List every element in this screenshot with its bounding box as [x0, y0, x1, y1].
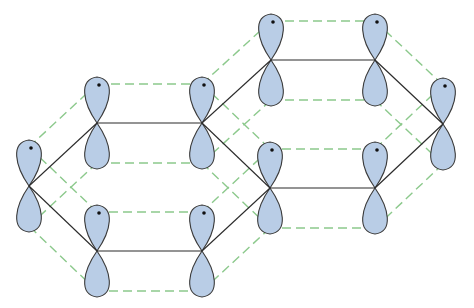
lower-lobe	[258, 188, 283, 234]
upper-lobe	[190, 77, 215, 123]
lower-lobe	[259, 60, 284, 106]
lower-lobe	[85, 123, 110, 169]
upper-lobe	[431, 78, 456, 124]
upper-lobe	[17, 140, 42, 186]
lower-lobe	[431, 124, 456, 170]
orbital-diagram	[0, 0, 474, 308]
upper-lobe	[363, 14, 388, 60]
lower-lobe	[85, 251, 110, 297]
upper-lobe	[85, 205, 110, 251]
upper-lobe	[363, 142, 388, 188]
lower-lobe	[190, 251, 215, 297]
electron-dot	[375, 20, 379, 24]
lower-lobe	[190, 123, 215, 169]
electron-dot	[270, 148, 274, 152]
electron-dot	[375, 148, 379, 152]
lower-lobe	[17, 186, 42, 232]
upper-lobe	[190, 205, 215, 251]
upper-lobe	[85, 77, 110, 123]
upper-lobe	[258, 142, 283, 188]
lower-lobe	[363, 188, 388, 234]
electron-dot	[29, 146, 33, 150]
electron-dot	[202, 83, 206, 87]
upper-lobe	[259, 14, 284, 60]
electron-dot	[97, 83, 101, 87]
electron-dot	[202, 211, 206, 215]
electron-dot	[271, 20, 275, 24]
lower-lobe	[363, 60, 388, 106]
electron-dot	[443, 84, 447, 88]
electron-dot	[97, 211, 101, 215]
